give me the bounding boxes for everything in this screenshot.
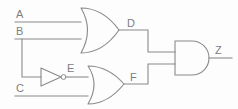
label-node-d: D (127, 17, 135, 29)
wire-node-d (119, 30, 175, 52)
logic-circuit-diagram: A B C D E F Z (0, 0, 238, 109)
circuit-canvas: A B C D E F Z (0, 0, 238, 109)
wire-b-branch-to-inverter (22, 39, 41, 77)
label-node-f: F (130, 71, 137, 83)
or-gate-bottom (88, 66, 124, 104)
or-gate-top (81, 8, 119, 53)
label-input-c: C (16, 82, 24, 94)
label-input-a: A (16, 8, 24, 20)
label-output-z: Z (215, 44, 222, 56)
and-gate (175, 41, 209, 75)
label-node-e: E (67, 62, 75, 74)
inverter-bubble-icon (61, 75, 66, 80)
not-gate (41, 68, 61, 86)
label-input-b: B (16, 25, 24, 37)
